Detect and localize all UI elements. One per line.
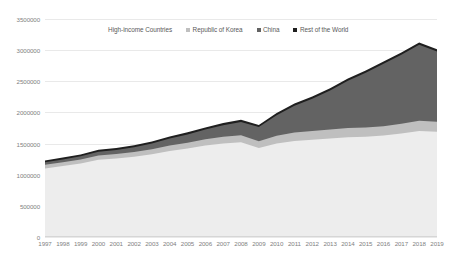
legend-swatch-icon <box>293 28 297 32</box>
x-axis-tick-label: 2016 <box>377 240 390 247</box>
x-axis-tick-label: 2007 <box>216 240 229 247</box>
x-axis-tick-label: 2012 <box>306 240 319 247</box>
area-series <box>45 131 437 237</box>
x-axis-tick-label: 2001 <box>110 240 123 247</box>
legend-label: China <box>263 26 279 33</box>
area-series-group <box>45 19 437 237</box>
y-axis-tick-label: 3000000 <box>0 47 40 54</box>
legend-item[interactable]: China <box>257 26 280 33</box>
y-axis-tick-label: 0 <box>0 234 40 241</box>
x-axis-tick-label: 2014 <box>341 240 354 247</box>
x-axis-tick-label: 2000 <box>92 240 105 247</box>
x-axis-tick-label: 1997 <box>38 240 51 247</box>
x-axis-tick-label: 2011 <box>288 240 301 247</box>
gridline <box>45 237 437 238</box>
x-axis-tick-label: 2019 <box>430 240 443 247</box>
x-axis-tick-label: 2009 <box>252 240 265 247</box>
y-axis-tick-label: 2000000 <box>0 109 40 116</box>
x-axis-tick-label: 2003 <box>145 240 158 247</box>
x-axis-tick-label: 2017 <box>395 240 408 247</box>
x-axis-tick-label: 2004 <box>163 240 176 247</box>
x-axis-tick-label: 2008 <box>234 240 247 247</box>
legend-label: Republic of Korea <box>193 26 243 33</box>
y-axis-tick-label: 1000000 <box>0 171 40 178</box>
legend-label: High-income Countries <box>108 26 172 33</box>
legend-item[interactable]: Rest of the World <box>293 26 348 33</box>
x-axis-tick-label: 2002 <box>127 240 140 247</box>
y-axis-tick-label: 3500000 <box>0 16 40 23</box>
x-axis-tick-label: 1998 <box>56 240 69 247</box>
x-axis-tick-labels: 1997199819992000200120022003200420052006… <box>45 240 437 252</box>
legend-swatch-icon <box>186 28 190 32</box>
legend-item[interactable]: Republic of Korea <box>186 26 242 33</box>
x-axis-tick-label: 2010 <box>270 240 283 247</box>
stacked-area-chart: 0500000100000015000002000000250000030000… <box>0 0 454 257</box>
chart-legend: High-income CountriesRepublic of KoreaCh… <box>0 26 454 33</box>
x-axis-tick-label: 1999 <box>74 240 87 247</box>
y-axis-tick-label: 1500000 <box>0 140 40 147</box>
legend-label: Rest of the World <box>300 26 348 33</box>
y-axis-tick-label: 2500000 <box>0 78 40 85</box>
y-axis-tick-label: 500000 <box>0 202 40 209</box>
legend-swatch-icon <box>257 28 261 32</box>
x-axis-tick-label: 2015 <box>359 240 372 247</box>
legend-item[interactable]: High-income Countries <box>106 26 172 33</box>
x-axis-tick-label: 2005 <box>181 240 194 247</box>
plot-area <box>45 19 437 237</box>
x-axis-tick-label: 2018 <box>412 240 425 247</box>
x-axis-tick-label: 2013 <box>323 240 336 247</box>
x-axis-line <box>45 236 437 237</box>
x-axis-tick-label: 2006 <box>199 240 212 247</box>
